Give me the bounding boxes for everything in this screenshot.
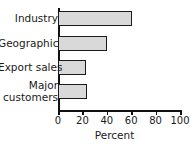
x-axis-title: Percent xyxy=(0,129,191,141)
bar-chart: 0 20 40 60 80 100 Industry Geographic Ex… xyxy=(0,0,191,146)
category-label-major-customers: Major customers xyxy=(0,80,58,103)
category-label-industry: Industry xyxy=(0,13,58,25)
x-tick-label-40: 40 xyxy=(94,115,120,126)
bar-major-customers xyxy=(58,84,87,99)
bar-industry xyxy=(58,11,132,26)
category-label-major-customers-line1: Major xyxy=(0,80,58,92)
category-label-export-sales: Export sales xyxy=(0,62,58,74)
x-tick-label-100: 100 xyxy=(167,115,191,126)
x-axis-line xyxy=(58,110,180,112)
category-label-major-customers-line2: customers xyxy=(0,92,58,104)
x-tick-label-60: 60 xyxy=(118,115,144,126)
x-tick-label-0: 0 xyxy=(45,115,71,126)
x-tick-label-20: 20 xyxy=(69,115,95,126)
bar-export-sales xyxy=(58,60,86,75)
bar-geographic xyxy=(58,36,107,51)
category-label-geographic: Geographic xyxy=(0,38,58,50)
plot-area: 0 20 40 60 80 100 Industry Geographic Ex… xyxy=(0,0,191,146)
x-tick-label-80: 80 xyxy=(143,115,169,126)
